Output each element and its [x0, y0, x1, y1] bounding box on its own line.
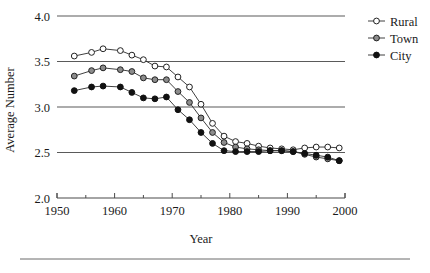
data-point — [198, 115, 204, 121]
legend-item-city[interactable]: City — [368, 49, 412, 63]
data-point — [210, 141, 216, 147]
y-tick-labels: 2.02.53.03.54.0 — [34, 10, 50, 206]
data-point — [221, 140, 227, 146]
line-chart: 2.02.53.03.54.0 195019601970198019902000… — [0, 0, 430, 273]
data-point — [279, 148, 285, 154]
data-point — [302, 151, 308, 157]
data-point — [141, 95, 147, 101]
data-point — [187, 84, 193, 90]
y-tick-label: 3.0 — [34, 101, 50, 115]
y-tick-label: 2.5 — [34, 146, 50, 160]
data-point — [152, 63, 158, 69]
data-point — [233, 139, 239, 145]
data-point — [336, 158, 342, 164]
series-line — [74, 49, 339, 150]
legend-label: City — [390, 49, 412, 63]
legend-marker-icon — [374, 52, 380, 58]
data-point — [164, 94, 170, 100]
x-tick-label: 2000 — [333, 204, 358, 218]
data-series-layer — [71, 46, 342, 164]
data-point — [71, 53, 77, 59]
data-point — [325, 144, 331, 150]
data-point — [187, 117, 193, 123]
data-point — [244, 141, 250, 147]
legend-item-rural[interactable]: Rural — [368, 15, 418, 29]
data-point — [71, 73, 77, 79]
data-point — [325, 154, 331, 160]
x-tick-label: 1980 — [217, 204, 242, 218]
data-point — [302, 145, 308, 151]
data-point — [267, 148, 273, 154]
data-point — [244, 149, 250, 155]
y-axis-title: Average Number — [3, 66, 17, 152]
x-axis-title: Year — [189, 232, 213, 246]
y-tick-label: 4.0 — [34, 10, 50, 24]
x-tick-label: 1950 — [45, 204, 70, 218]
x-tick-label: 1990 — [275, 204, 300, 218]
legend-marker-icon — [374, 18, 380, 24]
data-point — [100, 65, 106, 71]
x-tick-labels: 195019601970198019902000 — [45, 204, 358, 218]
data-point — [210, 120, 216, 126]
data-point — [313, 152, 319, 158]
data-point — [175, 89, 181, 95]
data-point — [221, 133, 227, 139]
x-tick-label: 1970 — [160, 204, 185, 218]
x-axis — [57, 193, 345, 198]
data-point — [210, 130, 216, 136]
data-point — [89, 68, 95, 74]
data-point — [221, 148, 227, 154]
data-point — [117, 84, 123, 90]
data-point — [290, 149, 296, 155]
data-point — [198, 101, 204, 107]
data-point — [256, 149, 262, 155]
legend-marker-icon — [374, 35, 380, 41]
data-point — [129, 52, 135, 58]
data-point — [71, 88, 77, 94]
x-tick-label: 1960 — [102, 204, 127, 218]
data-point — [175, 107, 181, 113]
data-point — [336, 145, 342, 151]
figure-container: 2.02.53.03.54.0 195019601970198019902000… — [0, 0, 430, 273]
y-tick-label: 3.5 — [34, 55, 50, 69]
data-point — [198, 130, 204, 136]
data-point — [152, 96, 158, 102]
data-point — [117, 48, 123, 54]
data-point — [164, 64, 170, 70]
data-point — [117, 67, 123, 73]
data-point — [164, 77, 170, 83]
data-point — [89, 50, 95, 56]
series-line — [74, 86, 339, 161]
legend-label: Town — [390, 32, 419, 46]
chart-legend: RuralTownCity — [368, 15, 419, 63]
data-point — [233, 149, 239, 155]
series-city — [71, 83, 342, 163]
data-point — [129, 69, 135, 75]
legend-item-town[interactable]: Town — [368, 32, 419, 46]
data-point — [313, 144, 319, 150]
data-point — [141, 75, 147, 81]
data-point — [100, 46, 106, 52]
data-point — [152, 77, 158, 83]
data-point — [129, 90, 135, 96]
data-point — [141, 57, 147, 63]
data-point — [187, 100, 193, 106]
data-point — [89, 84, 95, 90]
data-point — [100, 83, 106, 89]
data-point — [175, 74, 181, 80]
legend-label: Rural — [390, 15, 418, 29]
